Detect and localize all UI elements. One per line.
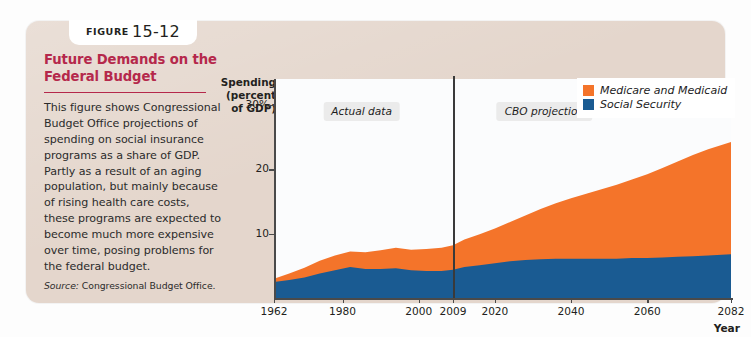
x-tick-mark	[274, 298, 275, 303]
y-tick-mark	[269, 234, 275, 235]
figure-number: 15-12	[132, 22, 180, 41]
projection-divider-line	[453, 76, 455, 298]
y-tick-label: 30%	[225, 98, 269, 110]
figure-panel: FIGURE15-12 Future Demands on the Federa…	[26, 21, 725, 303]
legend-swatch	[583, 99, 594, 110]
x-tick-label: 1962	[261, 305, 288, 317]
y-tick-mark	[269, 105, 275, 106]
x-tick-label: 2082	[718, 305, 745, 317]
figure-caption: Future Demands on the Federal Budget Thi…	[44, 52, 222, 291]
caption-title: Future Demands on the Federal Budget	[44, 52, 222, 86]
source-label: Source:	[44, 280, 79, 291]
x-tick-mark	[731, 298, 732, 303]
legend-item: Medicare and Medicaid	[583, 84, 727, 97]
figure-word: FIGURE	[86, 26, 129, 37]
legend-label: Social Security	[600, 98, 681, 111]
chart-legend: Medicare and MedicaidSocial Security	[577, 78, 735, 118]
legend-label: Medicare and Medicaid	[600, 84, 727, 97]
y-tick-mark	[269, 169, 275, 170]
x-tick-mark	[495, 298, 496, 303]
caption-source: Source: Congressional Budget Office.	[44, 280, 222, 291]
x-tick-label: 2040	[558, 305, 585, 317]
legend-item: Social Security	[583, 98, 727, 111]
y-tick-label: 20	[225, 162, 269, 174]
y-tick-label: 10	[225, 227, 269, 239]
figure-number-badge: FIGURE15-12	[69, 20, 197, 45]
source-text: Congressional Budget Office.	[82, 280, 216, 291]
x-tick-mark	[419, 298, 420, 303]
x-tick-mark	[343, 298, 344, 303]
x-tick-mark	[647, 298, 648, 303]
x-tick-mark	[571, 298, 572, 303]
chart-area: Spending (percent of GDP) 30%2010 196219…	[222, 46, 742, 316]
x-tick-label: 2009	[440, 305, 467, 317]
chart-annotation: Actual data	[323, 102, 400, 121]
x-tick-label: 1980	[329, 305, 356, 317]
y-axis-line	[274, 79, 276, 300]
caption-divider	[44, 92, 206, 94]
caption-body: This figure shows Congressional Budget O…	[44, 100, 222, 274]
x-tick-mark	[453, 298, 454, 303]
x-tick-label: 2020	[481, 305, 508, 317]
x-axis-title: Year	[714, 322, 740, 334]
y-axis-ticks: 30%2010	[222, 46, 269, 316]
x-tick-label: 2060	[634, 305, 661, 317]
legend-swatch	[583, 85, 594, 96]
figure-root: FIGURE15-12 Future Demands on the Federa…	[0, 0, 751, 337]
x-tick-label: 2000	[405, 305, 432, 317]
